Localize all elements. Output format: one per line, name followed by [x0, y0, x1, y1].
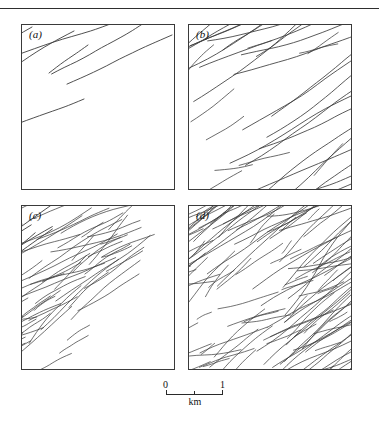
lineament-trace [22, 27, 32, 123]
panel-a-label: (a) [29, 28, 42, 41]
lineament-trace [236, 243, 283, 274]
lineament-trace [333, 266, 351, 281]
lineament-trace [246, 90, 352, 166]
lineament-trace [309, 209, 320, 220]
panel-d: (d) [188, 205, 352, 370]
lineament-trace [34, 296, 55, 310]
lineament-trace [300, 44, 338, 53]
lineament-trace [244, 311, 278, 322]
lineament-trace [200, 25, 334, 67]
figure-root: (a) (b) (c) (d) 0 1 km [0, 0, 379, 425]
panel-b: (b) [188, 24, 352, 190]
lineament-trace [213, 206, 278, 229]
lineament-trace [22, 206, 53, 318]
lineament-trace [250, 214, 274, 243]
lineament-trace [189, 323, 198, 352]
lineament-trace [22, 99, 84, 132]
lineament-trace [189, 274, 220, 301]
panel-b-label: (b) [196, 28, 209, 41]
lineament-trace [52, 25, 150, 74]
lineament-trace [197, 312, 211, 319]
lineament-trace [203, 359, 229, 367]
lineament-traces [189, 25, 351, 189]
lineament-trace [303, 355, 351, 369]
lineament-trace [267, 72, 351, 138]
lineament-trace [230, 95, 351, 163]
panel-d-label: (d) [196, 209, 209, 222]
lineament-trace [248, 41, 272, 49]
lineament-trace [67, 35, 172, 84]
lineament-trace [221, 326, 272, 369]
lineament-trace [287, 293, 334, 339]
page-header-text [4, 0, 244, 6]
lineament-trace [253, 229, 351, 289]
lineament-trace [200, 349, 255, 368]
scale-bar-start-label: 0 [163, 379, 168, 390]
lineament-trace [206, 116, 243, 139]
scale-bar: 0 1 km [160, 381, 230, 421]
lineament-trace [247, 137, 351, 189]
lineament-trace [85, 244, 130, 274]
lineament-trace [189, 45, 214, 77]
lineament-trace [271, 249, 301, 263]
lineament-trace [41, 259, 119, 329]
scale-bar-end-label: 1 [220, 379, 225, 390]
panel-c: (c) [21, 205, 175, 370]
lineament-trace [204, 171, 242, 189]
lineament-trace [22, 319, 36, 332]
lineament-trace [285, 295, 352, 362]
lineament-trace [316, 243, 351, 269]
lineament-trace [189, 241, 213, 270]
lineament-trace [58, 213, 123, 248]
lineament-trace [189, 270, 196, 277]
scale-bar-unit-label: km [160, 396, 230, 408]
lineament-trace [39, 354, 72, 370]
lineament-trace [272, 47, 351, 116]
lineament-trace [215, 165, 253, 171]
lineament-trace [60, 336, 89, 354]
lineament-traces [22, 25, 174, 189]
lineament-trace [22, 337, 25, 369]
panel-c-label: (c) [29, 209, 41, 222]
lineament-trace [191, 89, 234, 122]
lineament-trace [22, 316, 23, 363]
lineament-trace [256, 25, 311, 56]
lineament-trace [56, 236, 150, 302]
lineament-trace [22, 31, 74, 104]
lineament-trace [270, 206, 324, 239]
header-rule [0, 8, 379, 9]
lineament-trace [284, 273, 351, 322]
lineament-trace [234, 35, 351, 75]
lineament-trace [280, 207, 352, 231]
panel-a: (a) [21, 24, 175, 190]
lineament-trace [67, 325, 89, 340]
lineament-trace [264, 288, 351, 364]
lineament-trace [282, 241, 291, 254]
lineament-traces [189, 206, 351, 369]
lineament-trace [259, 173, 351, 189]
scale-bar-line [166, 394, 223, 395]
lineament-traces [22, 206, 174, 369]
lineament-trace [22, 261, 42, 289]
